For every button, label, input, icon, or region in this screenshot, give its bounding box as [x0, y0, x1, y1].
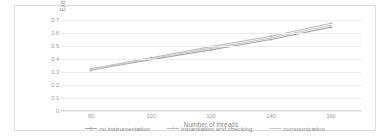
legend-item[interactable]: communication — [269, 125, 325, 132]
legend-item[interactable]: no instrumentation — [85, 125, 150, 132]
data-point-marker — [329, 22, 332, 25]
x-tick-label: 80 — [71, 113, 111, 119]
legend-swatch-icon — [85, 125, 97, 132]
x-tick-label: 100 — [131, 113, 171, 119]
chart-frame: Execution Time(s) 00.10.20.30.40.50.60.7… — [14, 5, 376, 131]
legend-swatch-icon — [167, 125, 179, 132]
legend-item[interactable]: instantiation and checking — [167, 125, 252, 132]
x-tick-label: 140 — [251, 113, 291, 119]
gridline — [61, 20, 361, 21]
x-tick-label: 160 — [311, 113, 351, 119]
y-tick-label: 0.3 — [29, 69, 59, 75]
chart-legend: no instrumentationinstantiation and chec… — [55, 122, 355, 134]
y-tick-label: 0.2 — [29, 82, 59, 88]
legend-label: no instrumentation — [99, 125, 150, 132]
y-tick-label: 0.7 — [29, 17, 59, 23]
y-tick-label: 0 — [29, 108, 59, 114]
y-tick-label: 0.6 — [29, 30, 59, 36]
gridline — [61, 46, 361, 47]
legend-label: communication — [283, 125, 325, 132]
gridline — [61, 85, 361, 86]
y-tick-label: 0.4 — [29, 56, 59, 62]
x-tick-label: 120 — [191, 113, 231, 119]
y-tick-label: 0.1 — [29, 95, 59, 101]
gridline — [61, 72, 361, 73]
legend-label: instantiation and checking — [181, 125, 252, 132]
gridline — [61, 59, 361, 60]
gridline — [61, 111, 361, 112]
legend-swatch-icon — [269, 125, 281, 132]
y-axis-title: Execution Time(s) — [59, 0, 66, 28]
x-axis-line — [61, 110, 361, 111]
gridline — [61, 98, 361, 99]
gridline — [61, 33, 361, 34]
plot-area: Execution Time(s) 00.10.20.30.40.50.60.7… — [61, 20, 361, 111]
y-tick-label: 0.5 — [29, 43, 59, 49]
data-point-marker — [329, 26, 332, 29]
